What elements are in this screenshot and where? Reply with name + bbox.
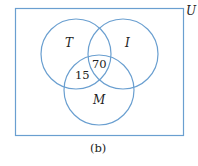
label-t: T [65,36,74,50]
label-i: I [124,36,130,50]
caption: (b) [90,141,106,155]
value-tim: 70 [92,57,107,71]
circle-i [88,19,158,89]
label-u: U [186,4,197,18]
label-m: M [92,93,106,107]
value-tm: 15 [75,68,90,82]
venn-diagram: U T I M 70 15 (b) [0,0,198,166]
